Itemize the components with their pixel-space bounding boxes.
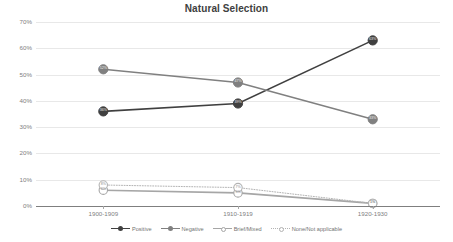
legend-swatch-icon [213,225,232,232]
legend-item-negative[interactable]: Negative [161,225,204,232]
legend-swatch-icon [111,225,130,232]
y-axis-tick-label: 60% [4,45,32,51]
y-axis-tick-label: 50% [4,72,32,78]
legend-swatch-icon [271,225,290,232]
x-axis-tick-mark [238,206,239,209]
chart-container: Natural Selection 36%39%63%52%47%33%6%5%… [0,0,453,242]
data-point-marker[interactable] [99,107,108,116]
data-point-marker[interactable] [368,115,377,124]
legend-item-positive[interactable]: Positive [111,225,152,232]
legend-swatch-icon [161,225,180,232]
x-axis-tick-mark [373,206,374,209]
x-axis-tick-label: 1910-1919 [193,210,283,217]
data-point-marker[interactable] [368,36,377,45]
y-axis-tick-label: 40% [4,98,32,104]
chart-title: Natural Selection [0,3,453,14]
y-axis-tick-label: 30% [4,124,32,130]
x-axis-tick-label: 1920-1930 [328,210,418,217]
y-axis-tick-label: 10% [4,177,32,183]
data-point-marker[interactable] [233,99,242,108]
chart-legend: PositiveNegativeBrief/MixedNone/Not appl… [0,225,453,232]
legend-item-brief-mixed[interactable]: Brief/Mixed [213,225,262,232]
plot-area: 36%39%63%52%47%33%6%5%1%8%7%1% [36,22,440,206]
data-point-marker[interactable] [234,183,242,191]
data-point-marker[interactable] [99,65,108,74]
x-axis-tick-label: 1900-1909 [58,210,148,217]
y-axis-tick-label: 0% [4,203,32,209]
series-line [103,69,372,119]
legend-item-label: Positive [132,226,152,232]
series-layer [36,22,440,206]
data-point-marker[interactable] [99,181,107,189]
legend-item-label: None/Not applicable [292,226,342,232]
data-point-marker[interactable] [233,78,242,87]
legend-item-none-not-applicable[interactable]: None/Not applicable [271,225,342,232]
legend-item-label: Negative [182,226,204,232]
y-axis-tick-label: 70% [4,19,32,25]
legend-item-label: Brief/Mixed [234,226,262,232]
y-axis-tick-label: 20% [4,150,32,156]
x-axis-tick-mark [103,206,104,209]
